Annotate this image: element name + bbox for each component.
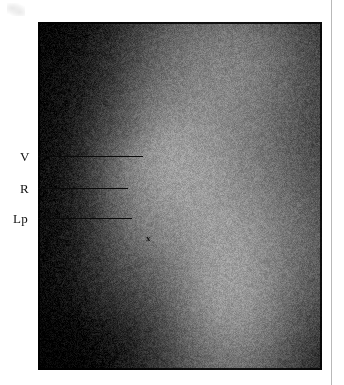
annotation-label-v: V (20, 150, 30, 163)
annotation-label-r: R (20, 182, 29, 195)
page-border-rule (331, 0, 332, 385)
figure-page: V R Lp x (0, 0, 344, 385)
scan-artifact-smudge (7, 3, 25, 16)
annotation-label-lp: Lp (13, 212, 28, 225)
radiograph-image (38, 22, 322, 370)
radiograph-canvas (38, 22, 322, 370)
